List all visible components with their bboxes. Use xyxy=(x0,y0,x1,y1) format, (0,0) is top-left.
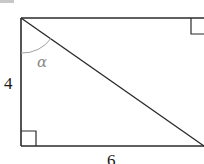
rectangle-diagram: α 4 6 xyxy=(0,0,204,164)
angle-arc xyxy=(21,38,51,53)
diagonal xyxy=(21,18,204,146)
width-label: 6 xyxy=(107,151,116,164)
right-angle-marker-top-right xyxy=(191,18,204,34)
right-angle-marker-bottom-left xyxy=(21,131,36,146)
height-label: 4 xyxy=(4,74,13,93)
angle-label-alpha: α xyxy=(37,53,47,71)
cutoff-text-fragment xyxy=(0,0,14,3)
